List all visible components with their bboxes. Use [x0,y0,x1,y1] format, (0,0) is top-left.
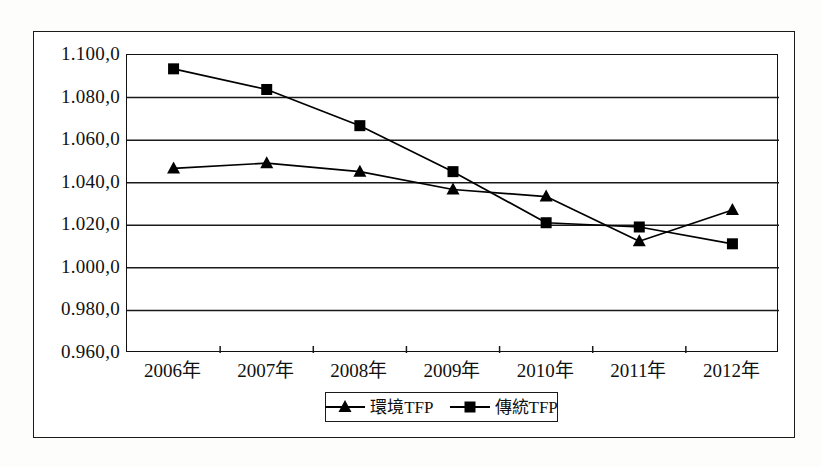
y-axis-tick-label: 1.080,0 [61,87,120,106]
data-point-square-marker [634,221,645,232]
data-point-square-marker [541,217,552,228]
x-axis-tick-label: 2007年 [219,358,312,388]
legend-label: 傳統TFP [495,399,558,416]
data-point-triangle-marker [260,156,273,168]
data-point-square-marker [464,402,475,413]
y-axis-tick-label: 0.960,0 [61,342,120,361]
plot-area [126,54,778,352]
series-line [174,69,733,244]
data-point-triangle-marker [339,400,352,412]
plot-svg [127,55,779,353]
y-axis-tick-label: 1.000,0 [61,257,120,276]
y-axis-tick-label: 1.100,0 [61,44,120,63]
data-point-square-marker [354,120,365,131]
legend-entry[interactable]: 傳統TFP [450,399,558,416]
data-point-square-marker [261,84,272,95]
x-axis-tick-label: 2008年 [312,358,405,388]
x-axis-tick-label: 2010年 [499,358,592,388]
x-axis-tick-label: 2006年 [126,358,219,388]
series-traditional-tfp [168,63,738,249]
chart-figure: 1.100,01.080,01.060,01.040,01.020,01.000… [0,0,822,467]
x-axis-tick-labels: 2006年2007年2008年2009年2010年2011年2012年 [126,358,778,388]
data-point-square-marker [168,63,179,74]
data-point-square-marker [448,166,459,177]
x-axis-tick-label: 2012年 [685,358,778,388]
x-axis-tick-label: 2009年 [405,358,498,388]
x-axis-tick-label: 2011年 [592,358,685,388]
y-axis-tick-label: 1.020,0 [61,214,120,233]
legend-square-marker-icon [450,399,490,415]
legend-entry[interactable]: 環境TFP [325,399,433,416]
y-axis-tick-label: 1.060,0 [61,129,120,148]
y-axis-tick-labels: 1.100,01.080,01.060,01.040,01.020,01.000… [30,0,120,467]
chart-legend: 環境TFP傳統TFP [325,392,558,422]
y-axis-tick-label: 1.040,0 [61,172,120,191]
y-axis-tick-label: 0.980,0 [61,299,120,318]
legend-label: 環境TFP [370,399,433,416]
data-point-square-marker [727,238,738,249]
legend-triangle-marker-icon [325,399,365,415]
data-point-triangle-marker [726,203,739,215]
